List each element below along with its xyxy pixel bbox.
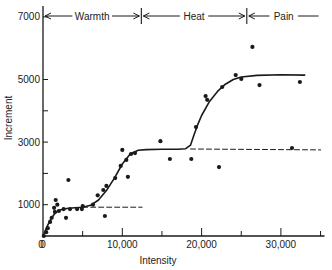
fitted-curve bbox=[43, 75, 305, 236]
data-point bbox=[50, 216, 54, 220]
data-point bbox=[57, 209, 61, 213]
phase-heat: Heat bbox=[143, 8, 246, 24]
data-point bbox=[81, 204, 85, 208]
chart: 010,00020,00030,00010003000500070000 War… bbox=[0, 0, 332, 270]
data-point bbox=[133, 151, 137, 155]
data-point bbox=[66, 178, 70, 182]
y-tick-label: 5000 bbox=[18, 74, 41, 85]
phase-label: Warmth bbox=[75, 11, 110, 22]
data-point bbox=[120, 148, 124, 152]
data-point bbox=[53, 210, 57, 214]
phase-label: Heat bbox=[184, 11, 205, 22]
data-point bbox=[75, 207, 79, 211]
data-point bbox=[234, 73, 238, 77]
data-point bbox=[91, 203, 95, 207]
y-axis-title: Increment bbox=[3, 96, 14, 141]
data-point bbox=[194, 125, 198, 129]
data-point bbox=[42, 234, 46, 238]
data-point bbox=[129, 152, 133, 156]
data-point bbox=[189, 157, 193, 161]
data-point bbox=[64, 216, 68, 220]
data-point bbox=[124, 158, 128, 162]
data-point bbox=[126, 175, 130, 179]
y-tick-label: 7000 bbox=[18, 11, 41, 22]
data-point bbox=[250, 45, 254, 49]
phase-label: Pain bbox=[274, 11, 294, 22]
data-point bbox=[48, 220, 52, 224]
data-point bbox=[46, 226, 50, 230]
data-point bbox=[204, 94, 208, 98]
data-point bbox=[101, 188, 105, 192]
data-point bbox=[44, 230, 48, 234]
data-point bbox=[113, 176, 117, 180]
data-point bbox=[103, 214, 107, 218]
axes: 010,00020,00030,00010003000500070000 bbox=[18, 6, 325, 250]
data-point bbox=[217, 165, 221, 169]
data-point bbox=[239, 77, 243, 81]
x-tick-label: 20,000 bbox=[186, 239, 217, 250]
data-point bbox=[62, 207, 66, 211]
data-point bbox=[290, 146, 294, 150]
data-point bbox=[220, 85, 224, 89]
phase-pain: Pain bbox=[249, 11, 319, 22]
phase-annotations: WarmthHeatPain bbox=[45, 8, 319, 24]
data-point bbox=[104, 184, 108, 188]
fitted-lines bbox=[43, 75, 321, 236]
data-point bbox=[158, 139, 162, 143]
data-point bbox=[205, 98, 209, 102]
y-tick-label: 1000 bbox=[18, 199, 41, 210]
data-points bbox=[42, 45, 302, 238]
data-point bbox=[68, 207, 72, 211]
data-point bbox=[55, 203, 59, 207]
y-tick-label: 3000 bbox=[18, 137, 41, 148]
data-point bbox=[96, 193, 100, 197]
data-point bbox=[119, 164, 123, 168]
data-point bbox=[52, 206, 56, 210]
heat-extrapolation bbox=[191, 149, 321, 150]
data-point bbox=[298, 80, 302, 84]
x-tick-label: 30,000 bbox=[266, 239, 297, 250]
phase-warmth: Warmth bbox=[45, 8, 141, 24]
x-axis-title: Intensity bbox=[139, 255, 176, 266]
x-tick-label: 10,000 bbox=[107, 239, 138, 250]
data-point bbox=[54, 198, 58, 202]
origin-label: 0 bbox=[38, 239, 44, 250]
data-point bbox=[168, 157, 172, 161]
data-point bbox=[257, 83, 261, 87]
